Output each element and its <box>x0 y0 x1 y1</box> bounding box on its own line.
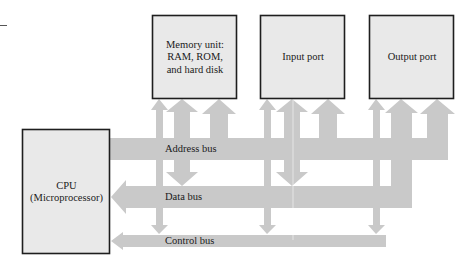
output-address-arrow <box>420 99 455 138</box>
memory-label-line1: Memory unit: <box>166 39 224 52</box>
input-port-label: Input port <box>261 16 345 99</box>
cpu-label-line1: CPU <box>56 180 76 193</box>
output-port-label-text: Output port <box>388 51 437 64</box>
memory-control-line <box>151 99 168 234</box>
control-bus <box>111 232 386 250</box>
input-address-arrow <box>311 99 345 138</box>
address-bus-label: Address bus <box>165 143 217 156</box>
memory-data-down-arrow <box>166 160 198 186</box>
memory-label: Memory unit: RAM, ROM, and hard disk <box>153 16 237 99</box>
input-data-down-arrow <box>276 160 308 186</box>
memory-label-line3: and hard disk <box>167 64 224 77</box>
cpu-label-line2: (Microprocessor) <box>30 192 103 205</box>
input-port-label-text: Input port <box>282 51 324 64</box>
control-bus-label: Control bus <box>165 235 214 248</box>
cpu-label: CPU (Microprocessor) <box>23 130 110 254</box>
memory-address-arrow <box>202 99 236 138</box>
input-data-up-arrow <box>276 99 308 138</box>
output-control-line <box>368 99 385 234</box>
output-port-label: Output port <box>370 16 454 99</box>
data-bus-label: Data bus <box>165 191 202 204</box>
memory-data-up-arrow <box>166 99 198 138</box>
input-control-line <box>259 99 276 234</box>
memory-label-line2: RAM, ROM, <box>167 51 223 64</box>
